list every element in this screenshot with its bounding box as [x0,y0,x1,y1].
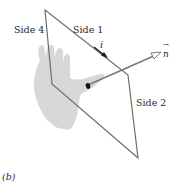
normal-vector-arrowhead-icon [151,52,161,59]
label-side-2: Side 2 [136,98,166,108]
label-normal-n: n [163,50,169,59]
normal-vector-accent-icon: → [163,42,169,49]
panel-label: (b) [2,172,16,182]
label-current-i: i [100,40,103,50]
normal-vector-shaft [88,55,156,85]
right-hand-rule-diagram: Side 4 Side 1 Side 2 i n → (b) [0,0,179,184]
label-side-1: Side 1 [73,25,103,35]
hand-icon [34,45,105,130]
label-side-4: Side 4 [14,25,44,35]
